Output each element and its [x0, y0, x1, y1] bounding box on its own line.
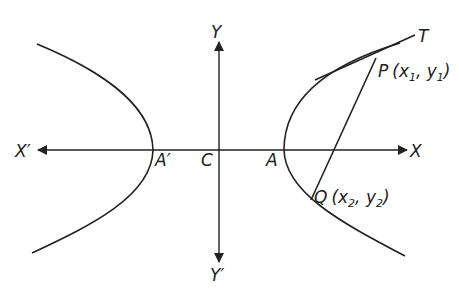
diagram-canvas: Y Y′ X X′ C A A′ T P(x1, y1) Q(x2, y2) — [0, 0, 459, 289]
label-point-p: P(x1, y1) — [378, 61, 450, 84]
chord-pq — [311, 58, 376, 200]
label-center-c: C — [201, 150, 213, 170]
hyperbola-left-branch — [32, 44, 153, 253]
label-tangent-t: T — [418, 26, 430, 46]
label-x-prime: X′ — [14, 141, 31, 161]
label-x: X — [409, 141, 422, 161]
label-vertex-a-prime: A′ — [154, 150, 171, 170]
label-point-q: Q(x2, y2) — [314, 187, 390, 210]
label-y-prime: Y′ — [210, 265, 224, 285]
hyperbola-diagram: Y Y′ X X′ C A A′ T P(x1, y1) Q(x2, y2) — [0, 0, 459, 289]
label-vertex-a: A — [265, 150, 278, 170]
label-y: Y — [211, 22, 223, 42]
